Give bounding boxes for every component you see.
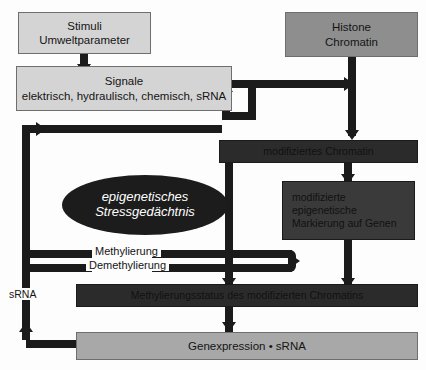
node-stimuli[interactable]: Stimuli Umweltparameter	[18, 12, 151, 54]
node-markierung-line2: epigenetische	[292, 204, 357, 217]
node-gedaechtnis-line1: epigenetisches	[102, 190, 189, 205]
connector-demethylierung-right	[152, 264, 292, 272]
node-histone-line1: Histone	[332, 20, 371, 34]
diagram-canvas: Stimuli Umweltparameter Signale elektris…	[0, 0, 426, 370]
connector-left-riser-main	[22, 125, 30, 340]
edge-label-srna: sRNA	[6, 288, 39, 300]
node-signale-line1: Signale	[105, 74, 143, 88]
node-methylierungsstatus-label: Methylierungsstatus des modifizierten Ch…	[131, 289, 363, 302]
node-stimuli-line2: Umweltparameter	[39, 33, 130, 47]
connector-demethylierung-left	[26, 264, 92, 272]
arrowhead-srna-feedback	[19, 322, 33, 332]
node-methylierungsstatus[interactable]: Methylierungsstatus des modifizierten Ch…	[76, 284, 418, 307]
connector-histone-to-modchromatin	[348, 56, 356, 136]
edge-label-methylierung: Methylierung	[92, 245, 161, 257]
arrowhead-histone-to-modchromatin	[345, 130, 359, 140]
arrowhead-left-top-to-right	[36, 122, 46, 136]
connector-methylierung-right	[152, 250, 292, 258]
connector-genexpression-to-left	[26, 340, 82, 348]
node-gedaechtnis-line2: Stressgedächtnis	[95, 205, 195, 220]
node-stimuli-line1: Stimuli	[67, 19, 102, 33]
node-signale-line2: elektrisch, hydraulisch, chemisch, sRNA	[22, 89, 227, 103]
arrowhead-methylierung-into-status	[290, 254, 300, 268]
arrowhead-status-to-genexpression	[222, 322, 236, 332]
node-genexpression[interactable]: Genexpression • sRNA	[76, 332, 418, 360]
node-modifiziertes-chromatin[interactable]: modifiziertes Chromatin	[219, 140, 418, 163]
node-markierung-line3: Markierung auf Genen	[292, 217, 396, 230]
node-modifiziertes-chromatin-label: modifiziertes Chromatin	[263, 145, 373, 158]
connector-signale-right	[228, 80, 350, 88]
node-markierung-line1: modifizierte	[292, 191, 346, 204]
node-signale[interactable]: Signale elektrisch, hydraulisch, chemisc…	[16, 66, 232, 111]
connector-left-top-horizontal	[26, 125, 222, 133]
node-markierung[interactable]: modifizierte epigenetische Markierung au…	[282, 181, 415, 240]
node-histone-line2: Chromatin	[325, 35, 378, 49]
node-genexpression-label: Genexpression • sRNA	[188, 339, 306, 353]
node-histone-chromatin[interactable]: Histone Chromatin	[285, 12, 418, 57]
edge-label-demethylierung: Demethylierung	[86, 259, 169, 271]
node-epigenetisches-stressgedaechtnis[interactable]: epigenetisches Stressgedächtnis	[62, 175, 228, 235]
connector-methylierung-left	[26, 250, 92, 258]
